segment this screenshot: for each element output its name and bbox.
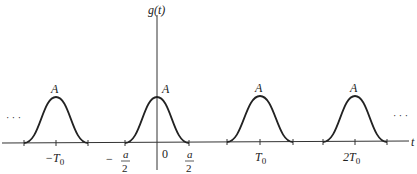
pulse-T0 xyxy=(227,96,293,142)
x-axis-label: t xyxy=(411,135,415,149)
pulse-minus-T0 xyxy=(24,97,88,143)
tick-label-2T0: 2T0 xyxy=(343,150,361,166)
y-axis-label: g(t) xyxy=(148,3,165,17)
t-axis xyxy=(2,141,409,143)
ellipsis-left: · · · xyxy=(6,112,21,123)
peak-label: A xyxy=(50,82,59,96)
ellipsis-right: · · · xyxy=(393,110,408,121)
tick-label-neg-half-den: 2 xyxy=(122,162,128,174)
pulse-train-diagram: g(t) t A A A A · · · · · · −T0 0 T0 2T0 … xyxy=(0,0,417,174)
tick-label-T0: T0 xyxy=(255,150,267,166)
tick-label-neg-half-sign: − xyxy=(106,152,113,166)
tick-label-pos-half-num: a xyxy=(187,148,193,160)
peak-label: A xyxy=(349,81,358,95)
tick-label-neg-half-num: a xyxy=(123,148,129,160)
peak-label: A xyxy=(254,81,263,95)
tick-label-origin: 0 xyxy=(162,147,168,161)
tick-label-pos-half-den: 2 xyxy=(186,162,192,174)
peak-label: A xyxy=(161,82,170,96)
pulse-2T0 xyxy=(323,96,387,142)
tick-label-minus-T0: −T0 xyxy=(45,151,65,167)
